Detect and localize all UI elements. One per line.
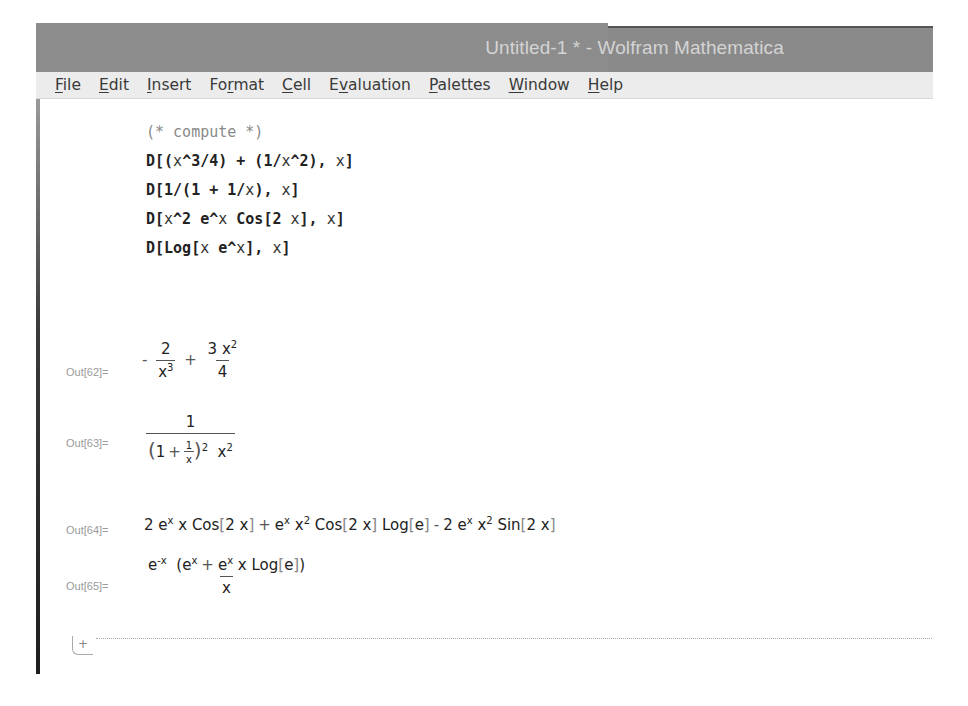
code-comment: (* compute *) xyxy=(146,118,354,147)
out-label-65: Out[65]= xyxy=(66,580,109,592)
code-line-3: D[x^2 e^x Cos[2 x], x] xyxy=(146,205,354,234)
menu-edit[interactable]: Edit xyxy=(99,76,129,94)
fraction: e-x (ex+ex x Log[e]) x xyxy=(146,556,307,597)
menu-file[interactable]: File xyxy=(55,76,81,94)
out-label-62: Out[62]= xyxy=(66,366,109,378)
code-line-1: D[(x^3/4) + (1/x^2), x] xyxy=(146,147,354,176)
code-line-2: D[1/(1 + 1/x), x] xyxy=(146,176,354,205)
menu-cell[interactable]: Cell xyxy=(282,76,311,94)
out-label-64: Out[64]= xyxy=(66,524,109,536)
fraction: 1 (1+1x)2 x2 xyxy=(146,413,235,465)
input-cell[interactable]: (* compute *) D[(x^3/4) + (1/x^2), x] D[… xyxy=(146,118,354,263)
window-left-border xyxy=(36,99,40,674)
output-64[interactable]: 2 ex x Cos[2 x]+ex x2 Cos[2 x] Log[e]-2 … xyxy=(144,516,556,534)
fraction: 3 x24 xyxy=(206,340,240,381)
menu-window[interactable]: Window xyxy=(509,76,570,94)
code-line-4: D[Log[x e^x], x] xyxy=(146,234,354,263)
plus-icon[interactable]: + xyxy=(72,636,93,655)
output-63[interactable]: 1 (1+1x)2 x2 xyxy=(146,413,235,465)
output-62[interactable]: - 2x3 + 3 x24 xyxy=(142,340,239,381)
out-label-63: Out[63]= xyxy=(66,437,109,449)
fraction: 2x3 xyxy=(156,340,175,381)
cell-insertion-point[interactable]: + xyxy=(72,636,932,656)
menu-help[interactable]: Help xyxy=(588,76,623,94)
output-65[interactable]: e-x (ex+ex x Log[e]) x xyxy=(146,556,307,597)
window-title: Untitled-1 * - Wolfram Mathematica xyxy=(36,23,933,72)
menu-evaluation[interactable]: Evaluation xyxy=(329,76,411,94)
menu-format[interactable]: Format xyxy=(209,76,264,94)
insertion-line xyxy=(96,638,932,639)
menu-insert[interactable]: Insert xyxy=(147,76,191,94)
menu-palettes[interactable]: Palettes xyxy=(429,76,491,94)
menu-bar: File Edit Insert Format Cell Evaluation … xyxy=(36,72,933,99)
